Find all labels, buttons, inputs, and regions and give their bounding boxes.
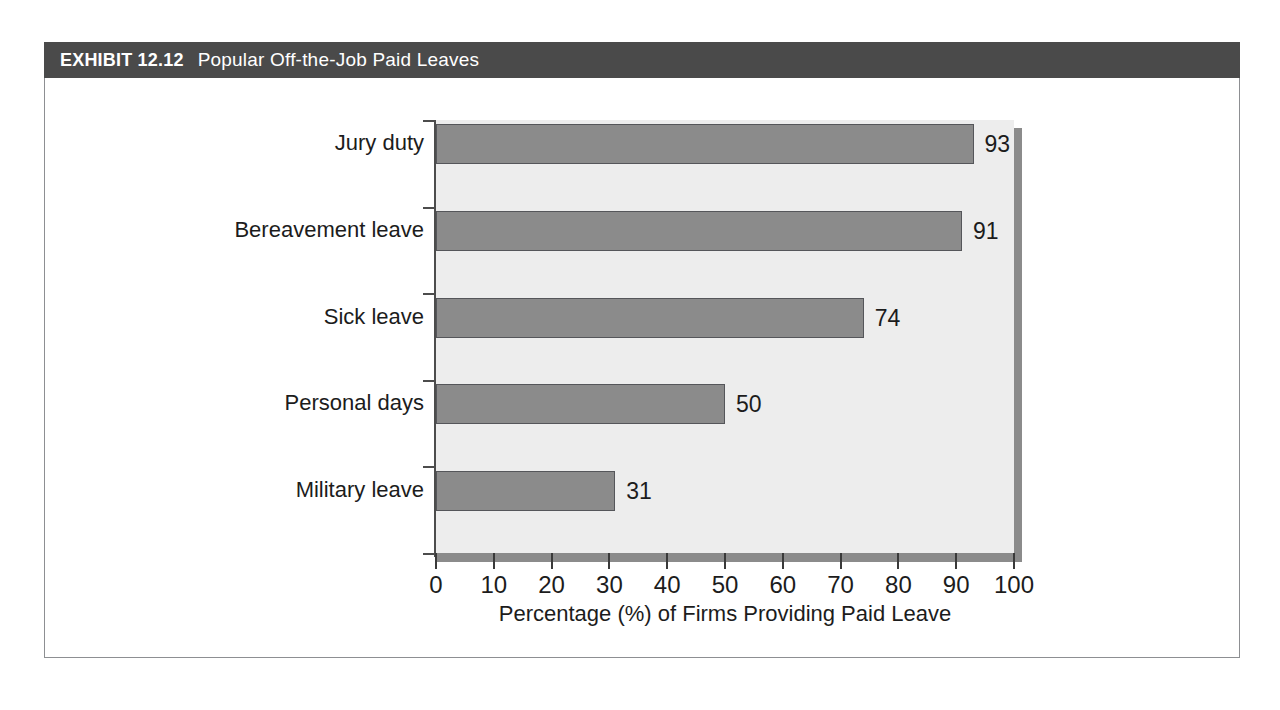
bar [436,124,974,164]
x-axis-tick [955,553,957,569]
bar-value-label: 50 [736,391,762,418]
x-axis-tick [493,553,495,569]
x-axis-tick [666,553,668,569]
category-label: Jury duty [4,130,424,156]
bar-row: 74 [436,298,1014,338]
y-axis-tick [423,380,436,382]
bar-row: 50 [436,384,1014,424]
bar-row: 31 [436,471,1014,511]
plot-shadow-bottom-edge [436,553,1022,562]
x-axis-tick [1013,553,1015,569]
x-axis-tick [724,553,726,569]
x-axis-tick [782,553,784,569]
x-axis-tick [840,553,842,569]
category-label: Military leave [4,477,424,503]
category-label: Personal days [4,390,424,416]
x-axis-tick [435,553,437,569]
x-axis-tick-label: 10 [480,571,507,599]
category-labels: Jury dutyBereavement leaveSick leavePers… [0,0,424,710]
x-axis-tick-label: 100 [994,571,1034,599]
x-axis-tick [608,553,610,569]
bar-row: 91 [436,211,1014,251]
y-axis-tick [423,207,436,209]
x-axis-tick-label: 30 [596,571,623,599]
bar-value-label: 31 [626,477,652,504]
plot-shadow-right-edge [1014,128,1022,561]
x-axis-tick-label: 0 [429,571,442,599]
category-label: Bereavement leave [4,217,424,243]
x-axis-tick-label: 50 [712,571,739,599]
category-label: Sick leave [4,304,424,330]
x-axis-tick [897,553,899,569]
bar [436,298,864,338]
x-axis-tick [551,553,553,569]
x-axis-tick-label: 90 [943,571,970,599]
y-axis-tick [423,120,436,122]
bar [436,211,962,251]
bar [436,471,615,511]
y-axis-tick [423,466,436,468]
bar-value-label: 91 [973,217,999,244]
bar [436,384,725,424]
x-axis-tick-label: 40 [654,571,681,599]
bar-value-label: 93 [985,131,1011,158]
x-axis-title: Percentage (%) of Firms Providing Paid L… [436,601,1014,627]
x-axis-tick-label: 60 [769,571,796,599]
bar-value-label: 74 [875,304,901,331]
x-axis-tick-label: 20 [538,571,565,599]
y-axis-tick [423,293,436,295]
x-axis-tick-label: 70 [827,571,854,599]
x-axis-tick-label: 80 [885,571,912,599]
bar-row: 93 [436,124,1014,164]
